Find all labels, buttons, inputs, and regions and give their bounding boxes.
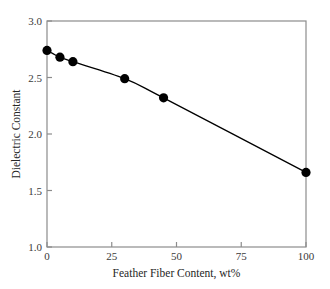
- y-tick-label-1.0: 1.0: [28, 241, 42, 253]
- y-axis-title: Dielectric Constant: [10, 89, 22, 179]
- y-tick-label-2.0: 2.0: [28, 128, 42, 140]
- y-tick-label-1.5: 1.5: [28, 185, 42, 197]
- x-tick-label-0: 0: [44, 250, 50, 262]
- chart-figure: 1.0 1.5 2.0 2.5 3.0 0 25 50 75 100 Feath…: [0, 0, 330, 289]
- data-point: [301, 168, 310, 177]
- y-tick-label-3.0: 3.0: [28, 15, 42, 27]
- y-tick-label-2.5: 2.5: [28, 72, 42, 84]
- data-point: [42, 46, 51, 55]
- data-point: [120, 74, 129, 83]
- data-point: [55, 53, 64, 62]
- x-tick-label-75: 75: [236, 250, 248, 262]
- data-point: [159, 93, 168, 102]
- dielectric-constant-line-chart: 1.0 1.5 2.0 2.5 3.0 0 25 50 75 100 Feath…: [0, 0, 330, 289]
- x-tick-label-50: 50: [171, 250, 183, 262]
- data-point: [68, 57, 77, 66]
- x-tick-label-25: 25: [106, 250, 118, 262]
- x-axis-title: Feather Fiber Content, wt%: [113, 267, 241, 280]
- chart-background: [0, 0, 330, 289]
- x-tick-label-100: 100: [298, 250, 315, 262]
